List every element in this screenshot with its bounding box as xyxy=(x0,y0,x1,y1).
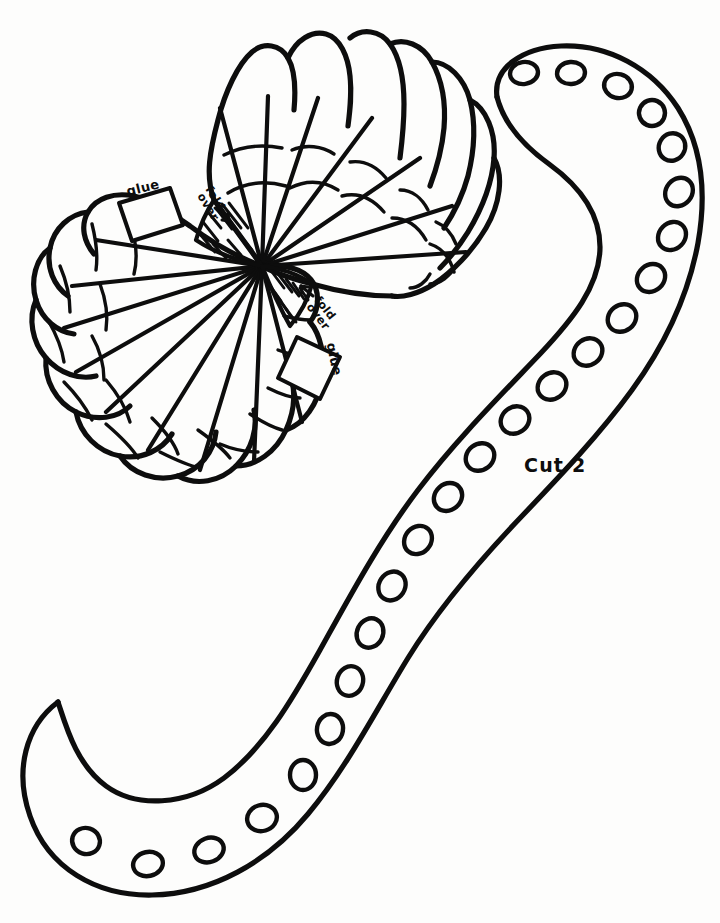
sucker xyxy=(635,96,669,130)
sucker xyxy=(652,216,692,256)
sucker xyxy=(333,663,367,700)
sucker xyxy=(428,477,468,516)
sucker xyxy=(315,712,346,746)
sucker xyxy=(352,614,389,652)
growth-ridge xyxy=(350,162,386,178)
sucker xyxy=(568,333,608,372)
sucker xyxy=(373,566,411,605)
sucker xyxy=(509,60,540,86)
growth-ridge xyxy=(92,224,97,270)
sucker xyxy=(532,367,572,406)
sucker xyxy=(495,401,535,440)
upper-fan-outline xyxy=(432,62,474,228)
tentacle-outer-edge xyxy=(23,46,702,895)
sucker xyxy=(602,71,635,101)
sucker xyxy=(131,849,165,879)
upper-fan-outline xyxy=(288,33,351,126)
fan-shell-piece: glue glue fold over fold over xyxy=(32,32,500,482)
sucker xyxy=(654,128,691,166)
growth-ridge xyxy=(228,183,286,193)
tentacle-piece: Cut 2 xyxy=(23,46,702,895)
sucker xyxy=(69,824,104,857)
lobe-divider xyxy=(262,96,268,266)
sucker xyxy=(244,801,280,834)
sucker xyxy=(631,258,671,297)
lobe-divider xyxy=(262,118,372,266)
fold-over-label-bottom: fold over xyxy=(301,286,339,333)
glue-tab-bottom: glue xyxy=(278,337,345,399)
growth-ridge xyxy=(290,182,338,190)
sucker xyxy=(556,61,585,85)
growth-ridge xyxy=(160,452,200,468)
lobe-divider xyxy=(262,158,420,266)
sucker xyxy=(398,520,437,560)
line-art-canvas: Cut 2 xyxy=(0,0,720,923)
sucker xyxy=(659,172,698,212)
sucker xyxy=(191,834,227,867)
template-page: Cut 2 xyxy=(0,0,720,923)
growth-ridge xyxy=(100,284,107,330)
lobe-divider xyxy=(262,252,466,266)
glue-tab-top: glue xyxy=(119,176,183,241)
growth-ridge xyxy=(400,190,428,210)
sucker xyxy=(460,438,500,477)
sucker xyxy=(602,299,642,338)
fold-over-label-top: fold over xyxy=(194,183,229,223)
sucker xyxy=(290,760,316,790)
cut-2-label: Cut 2 xyxy=(524,454,586,476)
